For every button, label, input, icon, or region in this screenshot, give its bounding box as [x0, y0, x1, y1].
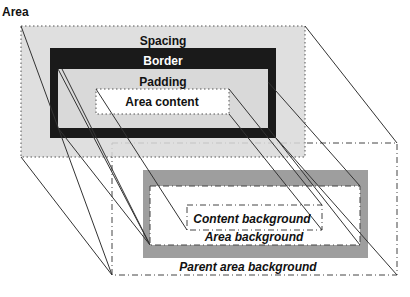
parent-area-background-label: Parent area background — [179, 260, 317, 274]
area-content-label: Area content — [125, 95, 198, 109]
area-background-label: Area background — [204, 230, 304, 244]
box-model-diagram: Area Spacing Border Padding Area content… — [0, 0, 410, 297]
spacing-label: Spacing — [140, 34, 187, 48]
padding-label: Padding — [139, 75, 186, 89]
area-label: Area — [2, 5, 29, 19]
content-background-label: Content background — [193, 212, 311, 226]
border-label: Border — [143, 54, 183, 68]
bottom-layer — [112, 143, 397, 275]
